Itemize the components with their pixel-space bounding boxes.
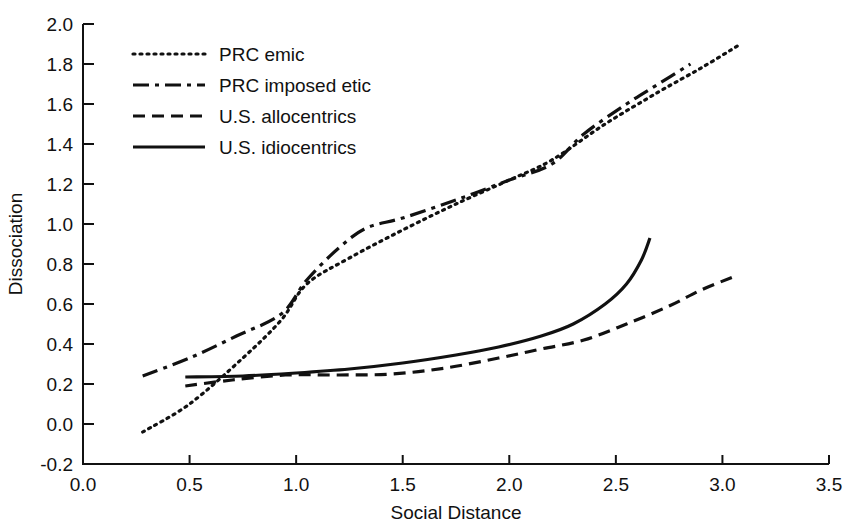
x-tick-label: 0.5 — [176, 474, 202, 495]
y-tick-label: 2.0 — [47, 14, 73, 35]
chart-svg: 0.00.51.01.52.02.53.03.5 -0.20.00.20.40.… — [0, 0, 856, 531]
legend-label-3: U.S. idiocentrics — [219, 137, 356, 158]
y-tick-label: 1.4 — [47, 134, 74, 155]
x-axis-ticks — [83, 455, 829, 464]
y-tick-label: -0.2 — [40, 454, 73, 475]
x-axis-title: Social Distance — [391, 502, 522, 523]
x-tick-label: 3.5 — [816, 474, 842, 495]
data-series-group — [143, 46, 738, 432]
y-tick-label: 0.8 — [47, 254, 73, 275]
x-tick-label: 1.5 — [390, 474, 416, 495]
series-line-u-s-allocentrics — [185, 277, 733, 386]
y-axis-ticks — [83, 24, 94, 464]
y-tick-label: 0.2 — [47, 374, 73, 395]
chart-legend: PRC emicPRC imposed eticU.S. allocentric… — [133, 44, 371, 158]
x-axis-tick-labels: 0.00.51.01.52.02.53.03.5 — [70, 474, 842, 495]
y-tick-label: 0.0 — [47, 414, 73, 435]
y-tick-label: 1.8 — [47, 54, 73, 75]
x-tick-label: 3.0 — [709, 474, 735, 495]
y-tick-label: 0.6 — [47, 294, 73, 315]
y-axis-tick-labels: -0.20.00.20.40.60.81.01.21.41.61.82.0 — [40, 14, 73, 475]
x-tick-label: 2.5 — [603, 474, 629, 495]
y-tick-label: 1.0 — [47, 214, 73, 235]
y-tick-label: 1.2 — [47, 174, 73, 195]
chart-figure: 0.00.51.01.52.02.53.03.5 -0.20.00.20.40.… — [0, 0, 856, 531]
x-tick-label: 1.0 — [283, 474, 309, 495]
y-axis-title: Dissociation — [5, 193, 26, 295]
legend-label-1: PRC imposed etic — [219, 75, 371, 96]
x-tick-label: 0.0 — [70, 474, 96, 495]
legend-label-0: PRC emic — [219, 44, 305, 65]
legend-label-2: U.S. allocentrics — [219, 106, 356, 127]
y-tick-label: 1.6 — [47, 94, 73, 115]
series-line-u-s-idiocentrics — [185, 238, 650, 377]
x-tick-label: 2.0 — [496, 474, 522, 495]
y-tick-label: 0.4 — [47, 334, 74, 355]
